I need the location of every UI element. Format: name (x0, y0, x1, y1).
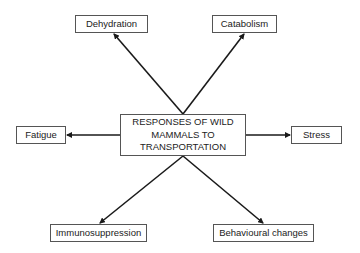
node-behavioural-changes: Behavioural changes (213, 224, 314, 242)
center-line-1: RESPONSES OF WILD (132, 116, 233, 129)
arrow-to-dehydration (114, 34, 183, 114)
node-stress: Stress (291, 126, 342, 144)
node-catabolism: Catabolism (212, 15, 277, 33)
arrow-to-catabolism (183, 34, 244, 114)
arrow-to-behavioural-changes (183, 156, 263, 223)
node-fatigue: Fatigue (16, 126, 66, 144)
node-immunosuppression: Immunosuppression (50, 224, 147, 242)
center-node: RESPONSES OF WILD MAMMALS TO TRANSPORTAT… (120, 114, 246, 156)
arrow-to-immunosuppression (100, 156, 183, 223)
center-line-3: TRANSPORTATION (132, 141, 233, 154)
node-dehydration: Dehydration (75, 15, 148, 33)
center-line-2: MAMMALS TO (132, 129, 233, 142)
